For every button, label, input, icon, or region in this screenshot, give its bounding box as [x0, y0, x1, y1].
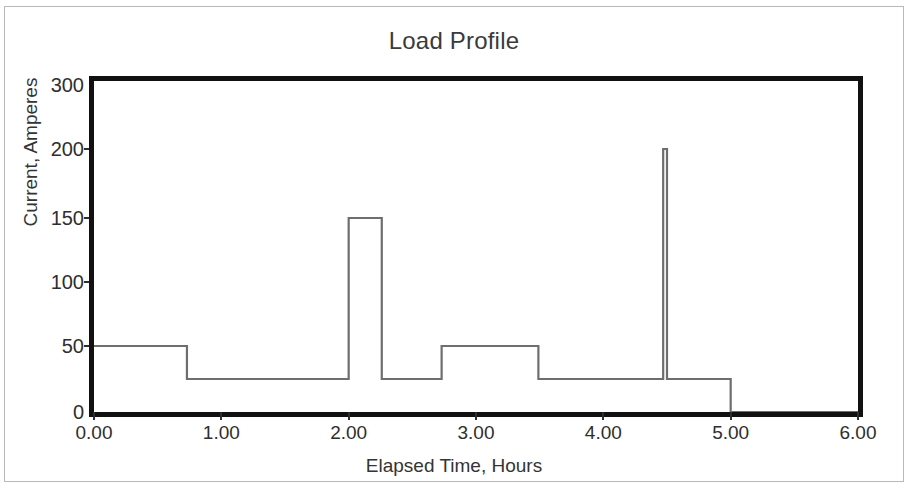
- y-axis-tick-label: 150: [51, 207, 84, 230]
- y-axis-tick-label: 300: [51, 74, 84, 97]
- x-axis-tick-label: 0.00: [76, 422, 113, 444]
- x-axis-tick-mark: [475, 412, 477, 420]
- x-axis-tick-label: 2.00: [330, 422, 367, 444]
- x-axis-tick-mark: [857, 412, 859, 420]
- x-axis-tick-mark: [730, 412, 732, 420]
- x-axis-tick-label: 1.00: [203, 422, 240, 444]
- x-axis-tick-label: 5.00: [712, 422, 749, 444]
- load-profile-figure: Load Profile Current, Amperes 0501001502…: [0, 0, 908, 489]
- y-axis-tick-label: 0: [73, 401, 84, 424]
- y-axis-tick-label: 50: [62, 335, 84, 358]
- y-axis-tick-group: 050100150200300: [0, 0, 84, 489]
- x-axis-tick-mark: [93, 412, 95, 420]
- x-axis-tick-mark: [348, 412, 350, 420]
- x-axis-tick-group: 0.001.002.003.004.005.006.00: [0, 422, 908, 452]
- x-axis-tick-label: 6.00: [840, 422, 877, 444]
- y-axis-tick-mark: [84, 217, 91, 219]
- y-axis-tick-mark: [84, 345, 91, 347]
- x-axis-tick-label: 4.00: [585, 422, 622, 444]
- x-axis-title: Elapsed Time, Hours: [0, 455, 908, 477]
- y-axis-tick-label: 200: [51, 138, 84, 161]
- x-axis-tick-mark: [220, 412, 222, 420]
- y-axis-tick-label: 100: [51, 271, 84, 294]
- load-current-polyline: [94, 149, 858, 412]
- x-axis-tick-mark: [602, 412, 604, 420]
- plot-area: [94, 81, 858, 412]
- y-axis-tick-mark: [84, 281, 91, 283]
- load-current-trace: [94, 81, 858, 412]
- y-axis-tick-mark: [84, 148, 91, 150]
- x-axis-tick-label: 3.00: [458, 422, 495, 444]
- chart-title: Load Profile: [0, 27, 908, 55]
